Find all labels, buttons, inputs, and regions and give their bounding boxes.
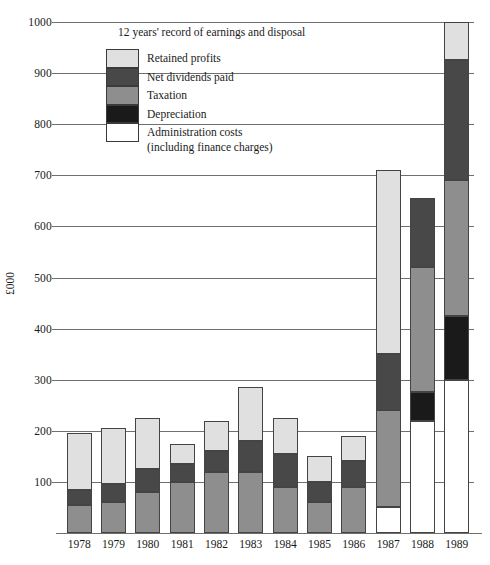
y-tick-mark-1000 xyxy=(52,22,62,23)
x-tick-label-1985: 1985 xyxy=(308,538,331,550)
x-tick-label-1980: 1980 xyxy=(136,538,159,550)
legend-item-label: Depreciation xyxy=(147,105,206,124)
legend-item-sublabel: (including finance charges) xyxy=(147,140,273,155)
bar-segment-1984-retained-profits[interactable] xyxy=(273,418,298,454)
y-tick-label-400: 400 xyxy=(14,323,52,335)
bar-1988[interactable] xyxy=(410,22,435,533)
bar-segment-1983-net-dividends-paid[interactable] xyxy=(238,441,263,472)
y-tick-mark-400 xyxy=(52,329,62,330)
bar-segment-1983-retained-profits[interactable] xyxy=(238,387,263,441)
bar-segment-1985-net-dividends-paid[interactable] xyxy=(307,482,332,502)
bar-1986[interactable] xyxy=(341,22,366,533)
bar-segment-1989-net-dividends-paid[interactable] xyxy=(444,60,469,180)
y-tick-mark-800 xyxy=(52,124,62,125)
legend-swatch-icon xyxy=(106,123,139,142)
legend-item-label: Taxation xyxy=(147,86,187,105)
bar-segment-1981-retained-profits[interactable] xyxy=(170,444,195,464)
bar-segment-1978-taxation[interactable] xyxy=(67,505,92,533)
y-tick-label-100: 100 xyxy=(14,476,52,488)
bar-segment-1984-taxation[interactable] xyxy=(273,487,298,533)
y-tick-mark-300 xyxy=(52,380,62,381)
bar-segment-1978-net-dividends-paid[interactable] xyxy=(67,490,92,505)
y-tick-mark-900 xyxy=(52,73,62,74)
legend-item-net-dividends-paid[interactable]: Net dividends paid xyxy=(106,68,336,87)
y-tick-label-300: 300 xyxy=(14,374,52,386)
y-tick-mark-500 xyxy=(52,278,62,279)
y-tick-mark-700 xyxy=(52,175,62,176)
bar-segment-1981-net-dividends-paid[interactable] xyxy=(170,464,195,482)
legend-item-administration-costs[interactable]: Administration costs(including finance c… xyxy=(106,123,336,142)
bar-segment-1979-retained-profits[interactable] xyxy=(101,428,126,484)
bar-segment-1988-taxation[interactable] xyxy=(410,267,435,392)
y-tick-label-900: 900 xyxy=(14,67,52,79)
bar-1987[interactable] xyxy=(376,22,401,533)
bar-segment-1979-taxation[interactable] xyxy=(101,502,126,533)
bar-segment-1987-administration-costs-including-finance-charges[interactable] xyxy=(376,507,401,533)
x-tick-label-1983: 1983 xyxy=(239,538,262,550)
y-tick-label-1000: 1000 xyxy=(14,16,52,28)
y-tick-mark-100 xyxy=(52,482,62,483)
bar-segment-1980-retained-profits[interactable] xyxy=(135,418,160,469)
bar-segment-1988-administration-costs-including-finance-charges[interactable] xyxy=(410,421,435,533)
y-tick-label-200: 200 xyxy=(14,425,52,437)
bar-segment-1978-retained-profits[interactable] xyxy=(67,433,92,489)
bar-segment-1982-retained-profits[interactable] xyxy=(204,421,229,452)
legend-item-label: Retained profits xyxy=(147,49,221,68)
bar-segment-1987-retained-profits[interactable] xyxy=(376,170,401,354)
bar-segment-1979-net-dividends-paid[interactable] xyxy=(101,484,126,502)
bar-segment-1986-taxation[interactable] xyxy=(341,487,366,533)
x-tick-label-1986: 1986 xyxy=(342,538,365,550)
x-tick-label-1984: 1984 xyxy=(274,538,297,550)
legend-item-label: Administration costs xyxy=(147,123,243,142)
legend-item-label: Net dividends paid xyxy=(147,68,234,87)
legend-swatch-icon xyxy=(106,86,139,105)
y-tick-mark-600 xyxy=(52,226,62,227)
y-tick-mark-200 xyxy=(52,431,62,432)
y-tick-label-600: 600 xyxy=(14,220,52,232)
x-tick-label-1989: 1989 xyxy=(445,538,468,550)
legend-swatch-icon xyxy=(106,105,139,124)
bar-segment-1984-net-dividends-paid[interactable] xyxy=(273,454,298,487)
legend-item-retained-profits[interactable]: Retained profits xyxy=(106,49,336,68)
bar-segment-1987-taxation[interactable] xyxy=(376,410,401,507)
legend-swatch-icon xyxy=(106,49,139,68)
legend-item-taxation[interactable]: Taxation xyxy=(106,86,336,105)
bar-segment-1980-net-dividends-paid[interactable] xyxy=(135,469,160,492)
y-tick-label-500: 500 xyxy=(14,272,52,284)
bar-segment-1982-net-dividends-paid[interactable] xyxy=(204,451,229,471)
x-tick-label-1981: 1981 xyxy=(171,538,194,550)
legend-swatch-icon xyxy=(106,68,139,87)
bar-segment-1989-taxation[interactable] xyxy=(444,180,469,315)
bar-segment-1980-taxation[interactable] xyxy=(135,492,160,533)
x-tick-label-1982: 1982 xyxy=(205,538,228,550)
bar-segment-1988-depreciation[interactable] xyxy=(410,392,435,420)
x-tick-label-1979: 1979 xyxy=(102,538,125,550)
y-tick-label-800: 800 xyxy=(14,118,52,130)
x-tick-label-1988: 1988 xyxy=(411,538,434,550)
bar-segment-1983-taxation[interactable] xyxy=(238,472,263,533)
bar-segment-1989-retained-profits[interactable] xyxy=(444,22,469,60)
bar-segment-1985-taxation[interactable] xyxy=(307,502,332,533)
bar-segment-1986-retained-profits[interactable] xyxy=(341,436,366,462)
bar-segment-1982-taxation[interactable] xyxy=(204,472,229,533)
bar-1989[interactable] xyxy=(444,22,469,533)
x-tick-label-1978: 1978 xyxy=(68,538,91,550)
chart-root: 12 years' record of earnings and disposa… xyxy=(0,0,490,565)
x-axis-line xyxy=(56,533,482,534)
bar-segment-1989-administration-costs-including-finance-charges[interactable] xyxy=(444,380,469,533)
bar-segment-1981-taxation[interactable] xyxy=(170,482,195,533)
bar-segment-1988-net-dividends-paid[interactable] xyxy=(410,198,435,267)
y-tick-label-700: 700 xyxy=(14,169,52,181)
x-tick-label-1987: 1987 xyxy=(377,538,400,550)
bar-segment-1986-net-dividends-paid[interactable] xyxy=(341,461,366,487)
bar-segment-1985-retained-profits[interactable] xyxy=(307,456,332,482)
legend: Retained profitsNet dividends paidTaxati… xyxy=(106,49,336,142)
bar-segment-1989-depreciation[interactable] xyxy=(444,316,469,380)
bar-segment-1987-net-dividends-paid[interactable] xyxy=(376,354,401,410)
bar-1978[interactable] xyxy=(67,22,92,533)
legend-item-depreciation[interactable]: Depreciation xyxy=(106,105,336,124)
